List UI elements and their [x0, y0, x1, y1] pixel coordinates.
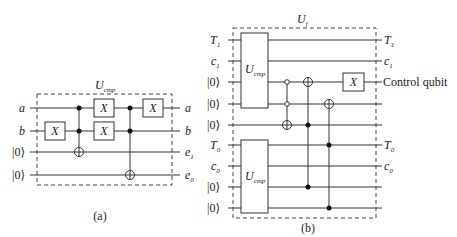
output-label-e0: e0 [185, 168, 194, 184]
toffoli-gate-2 [126, 106, 135, 181]
input-label-c1: c1 [211, 54, 220, 70]
output-label-T0: T0 [384, 138, 395, 154]
figure-a-title: Ucmp [95, 78, 116, 94]
input-label-ket0-3: |0⟩ [207, 97, 220, 111]
x-gate-b-2: X [94, 122, 114, 140]
input-label-ket0-1: |0⟩ [12, 145, 25, 159]
svg-text:X: X [50, 124, 59, 138]
figure-b: Uf T1 c1 |0⟩ |0⟩ |0⟩ T0 c0 |0⟩ |0⟩ T1 c1… [207, 12, 448, 235]
output-label-b: b [185, 124, 191, 138]
output-label-e1: e1 [185, 145, 194, 161]
output-label-c0: c0 [384, 159, 393, 175]
input-label-c0: c0 [211, 159, 220, 175]
input-label-ket0-2: |0⟩ [207, 75, 220, 89]
open-control-dot [285, 80, 290, 85]
control-dot [306, 185, 311, 190]
input-label-ket0-7: |0⟩ [207, 180, 220, 194]
ucmp-block-lower: Ucmp [241, 140, 268, 213]
toffoli-gate-3 [304, 78, 313, 190]
x-gate-a-2: X [143, 99, 163, 117]
circuit-diagram: Ucmp a b |0⟩ |0⟩ a b e1 e0 X [0, 0, 457, 237]
ucmp-block-upper: Ucmp [241, 33, 268, 108]
input-label-a: a [19, 101, 25, 115]
svg-text:X: X [99, 124, 108, 138]
toffoli-open-control-gate [283, 80, 292, 130]
figure-a: Ucmp a b |0⟩ |0⟩ a b e1 e0 X [12, 78, 194, 223]
input-label-b: b [19, 124, 25, 138]
control-dot [327, 143, 332, 148]
output-label-c1: c1 [384, 54, 393, 70]
figure-b-title: Uf [297, 12, 309, 28]
figure-b-caption: (b) [301, 221, 315, 235]
svg-text:X: X [99, 101, 108, 115]
x-gate-b-1: X [45, 122, 65, 140]
input-label-T0: T0 [210, 138, 221, 154]
x-gate-a-1: X [94, 99, 114, 117]
control-dot [77, 106, 82, 111]
output-label-T1: T1 [384, 33, 394, 49]
toffoli-gate-4 [325, 100, 334, 211]
input-label-ket0-4: |0⟩ [207, 118, 220, 132]
control-dot [77, 129, 82, 134]
open-control-dot [285, 102, 290, 107]
svg-text:X: X [148, 101, 157, 115]
input-label-ket0-8: |0⟩ [207, 201, 220, 215]
control-dot [128, 106, 133, 111]
input-label-T1: T1 [210, 33, 220, 49]
svg-text:X: X [349, 75, 358, 89]
control-dot [327, 206, 332, 211]
output-label-control-qubit: Control qubit [383, 75, 448, 89]
figure-a-caption: (a) [93, 209, 106, 223]
output-label-a: a [185, 101, 191, 115]
control-dot [306, 123, 311, 128]
control-dot [128, 129, 133, 134]
input-label-ket0-2: |0⟩ [12, 168, 25, 182]
x-gate-control-qubit: X [343, 73, 364, 91]
